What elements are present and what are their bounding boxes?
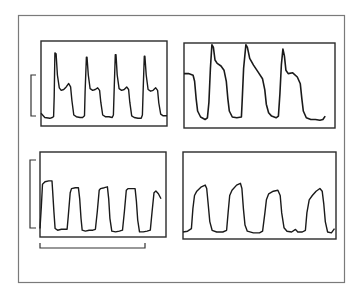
panel-bottom-left — [40, 152, 166, 237]
panel-bottom-right — [183, 152, 336, 239]
waveform-trace — [183, 183, 335, 233]
panel-top-right — [184, 43, 335, 128]
amplitude-scale-bar-top — [31, 75, 36, 116]
panel-border — [184, 43, 335, 128]
panel-top-left — [41, 41, 167, 126]
waveform-trace — [184, 45, 325, 121]
waveform-trace — [41, 53, 167, 118]
panel-border — [41, 41, 167, 126]
amplitude-scale-bar-bottom — [30, 160, 36, 228]
waveform-trace — [40, 181, 161, 232]
time-scale-bar — [40, 243, 145, 248]
panel-border — [40, 152, 166, 237]
outer-frame — [19, 16, 345, 283]
waveform-figure — [0, 0, 359, 291]
